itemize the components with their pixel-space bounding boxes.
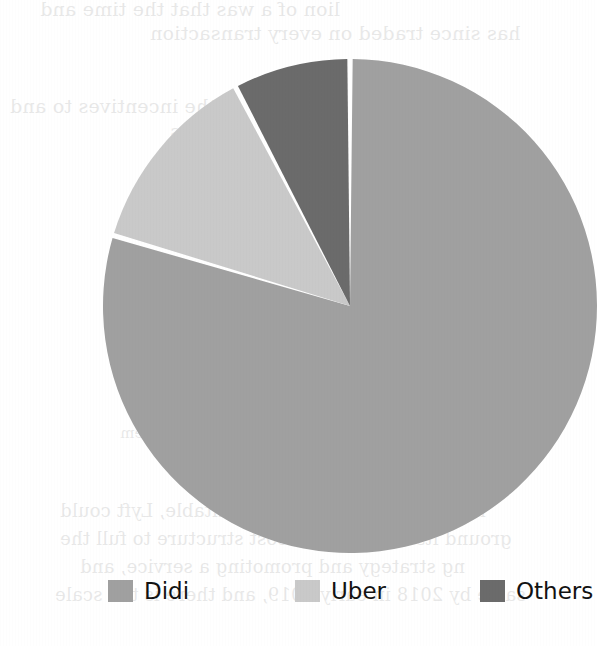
legend-item-others[interactable]: Others [480,578,593,604]
legend-swatch-others [480,580,505,602]
legend-swatch-uber [295,580,320,602]
legend-label-uber: Uber [331,580,386,603]
pie-plot-area [40,16,601,576]
chart-legend: Didi Uber Others [40,572,601,612]
legend-item-didi[interactable]: Didi [108,578,189,604]
legend-swatch-didi [108,580,133,602]
legend-item-uber[interactable]: Uber [295,578,386,604]
pie-chart-svg [40,16,601,576]
legend-label-others: Others [516,580,593,603]
pie-chart-figure: Didi Uber Others [40,16,555,630]
legend-label-didi: Didi [144,580,189,603]
